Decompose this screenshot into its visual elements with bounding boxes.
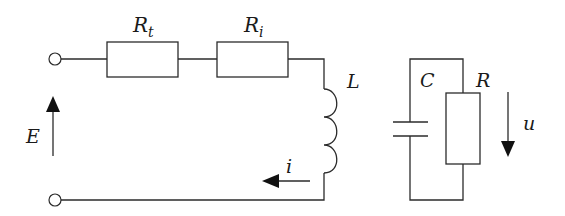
resistor-ri xyxy=(217,42,288,77)
source-circuit xyxy=(46,42,337,206)
label-i: i xyxy=(286,155,292,177)
label-r: R xyxy=(475,69,490,91)
label-u: u xyxy=(523,112,535,134)
resistor-r xyxy=(446,93,480,164)
label-rt: Rt xyxy=(132,13,154,40)
wire-bottom xyxy=(61,173,324,200)
emf-arrow xyxy=(46,96,60,156)
terminal-top xyxy=(49,53,61,65)
label-e: E xyxy=(25,125,40,147)
label-ri: Ri xyxy=(243,13,264,40)
rc-load-circuit xyxy=(393,59,515,200)
inductor-l xyxy=(324,89,337,173)
wire-ri-inductor xyxy=(288,59,324,89)
label-l: L xyxy=(346,70,360,92)
circuit-diagram: Rt Ri L i E C R u xyxy=(0,0,565,216)
terminal-bottom xyxy=(49,194,61,206)
voltage-arrow xyxy=(501,92,515,157)
label-c: C xyxy=(420,69,435,91)
capacitor-c xyxy=(393,122,428,136)
resistor-rt xyxy=(107,42,178,77)
